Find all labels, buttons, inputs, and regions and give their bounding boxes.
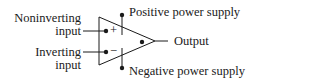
output-node bbox=[140, 40, 144, 44]
negative-supply-label: Negative power supply bbox=[129, 65, 245, 78]
op-amp-triangle bbox=[99, 17, 155, 65]
positive-supply-node bbox=[120, 13, 124, 17]
plus-sign: + bbox=[110, 24, 117, 37]
positive-supply-label: Positive power supply bbox=[129, 6, 240, 19]
noninverting-label-line2: input bbox=[55, 25, 81, 38]
inverting-node bbox=[104, 50, 108, 54]
output-label: Output bbox=[174, 35, 209, 48]
minus-sign: − bbox=[110, 45, 117, 58]
negative-supply-node bbox=[120, 66, 124, 70]
noninverting-node bbox=[104, 29, 108, 33]
inverting-label-line2: input bbox=[55, 59, 81, 72]
